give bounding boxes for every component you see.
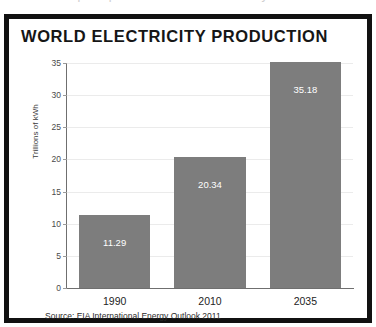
y-axis-tick-mark [63, 224, 67, 225]
x-axis-tick-label: 2035 [258, 295, 353, 307]
y-axis-tick-mark [63, 95, 67, 96]
y-axis-title: Trillions of kWh [31, 72, 40, 192]
bar-1990[interactable]: 11.29 [79, 215, 151, 288]
y-axis-tick-mark [63, 288, 67, 289]
y-axis-tick-label: 10 [35, 219, 61, 229]
y-axis-tick-mark [63, 63, 67, 64]
y-axis-tick-label: 0 [35, 283, 61, 293]
y-axis-tick-mark [63, 256, 67, 257]
clipped-body-text: the first and principal source of new el… [0, 0, 376, 13]
bar-value-label: 11.29 [79, 237, 151, 248]
x-axis-tick-label: 2010 [162, 295, 257, 307]
bar-2010[interactable]: 20.34 [174, 157, 246, 288]
bar-2035[interactable]: 35.18 [270, 62, 342, 288]
source-note: Source: EIA International Energy Outlook… [45, 311, 221, 321]
y-axis-tick-label: 5 [35, 251, 61, 261]
clipped-body-text-line: the first and principal source of new el… [6, 0, 268, 2]
page-title: WORLD ELECTRICITY PRODUCTION [21, 27, 328, 46]
y-axis-tick-mark [63, 127, 67, 128]
y-axis-tick-mark [63, 192, 67, 193]
bar-value-label: 20.34 [174, 179, 246, 190]
gridline [67, 288, 353, 289]
y-axis-tick-label: 35 [35, 58, 61, 68]
plot-area: 11.2920.3435.18 [67, 63, 353, 288]
x-axis-tick-label: 1990 [67, 295, 162, 307]
y-axis-tick-mark [63, 159, 67, 160]
chart-figure: WORLD ELECTRICITY PRODUCTION 05101520253… [4, 14, 372, 323]
bar-value-label: 35.18 [270, 84, 342, 95]
